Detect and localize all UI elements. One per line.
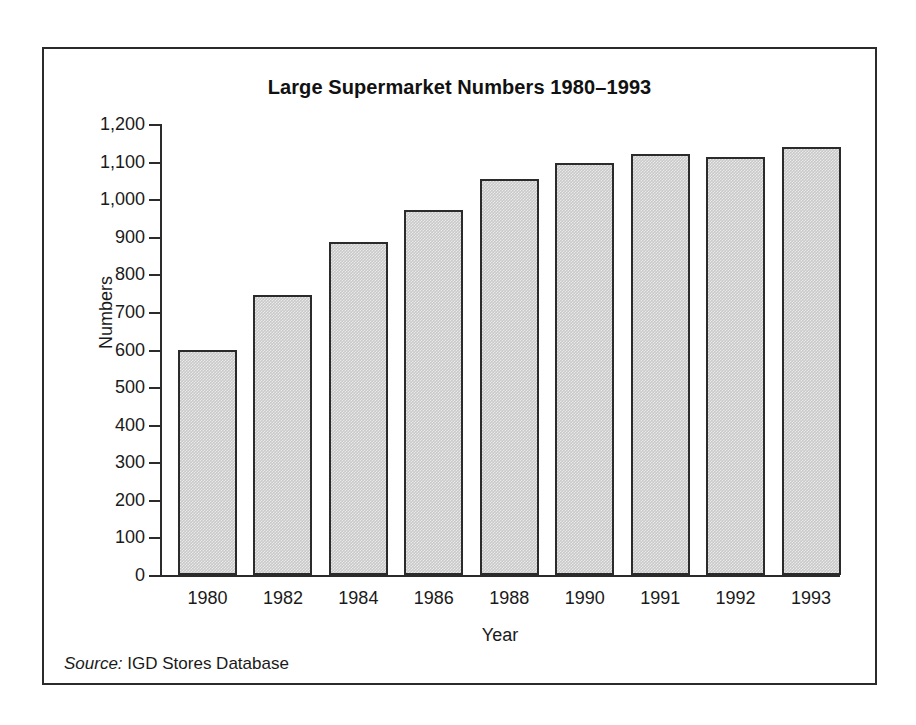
y-tick-mark [149,124,160,126]
x-tick-label: 1984 [329,588,388,609]
x-tick-label: 1988 [480,588,539,609]
bar-group: 1988 [480,124,539,575]
source-label: Source: [64,654,123,673]
x-tick-label: 1980 [178,588,237,609]
bar-series: 198019821984198619881990199119921993 [160,124,839,575]
y-tick-mark [149,575,160,577]
bar [631,154,690,575]
y-tick-mark [149,274,160,276]
chart-figure: Large Supermarket Numbers 1980–1993 0100… [42,47,877,685]
x-tick-label: 1982 [253,588,312,609]
y-tick-label: 200 [115,489,145,510]
bar [480,179,539,576]
y-tick-label: 700 [115,301,145,322]
bar-group: 1990 [555,124,614,575]
y-tick-mark [149,237,160,239]
x-tick-label: 1986 [404,588,463,609]
y-tick-label: 300 [115,452,145,473]
bar-group: 1992 [706,124,765,575]
bar-group: 1991 [631,124,690,575]
bar [555,163,614,575]
y-tick-label: 1,100 [100,151,145,172]
y-tick-mark [149,199,160,201]
bar [782,147,841,575]
y-tick-label: 1,200 [100,114,145,135]
y-tick-mark [149,387,160,389]
y-tick-mark [149,162,160,164]
bar [706,157,765,575]
y-tick-mark [149,500,160,502]
y-tick-label: 600 [115,339,145,360]
x-tick-label: 1992 [706,588,765,609]
bar-group: 1984 [329,124,388,575]
y-tick-label: 900 [115,226,145,247]
y-tick-label: 1,000 [100,189,145,210]
x-tick-label: 1991 [631,588,690,609]
bar [404,210,463,575]
x-axis-line [160,575,840,577]
bar-group: 1982 [253,124,312,575]
y-tick-label: 500 [115,377,145,398]
y-tick-label: 100 [115,527,145,548]
y-tick-mark [149,350,160,352]
bar-group: 1993 [782,124,841,575]
chart-title: Large Supermarket Numbers 1980–1993 [44,76,875,99]
x-axis-title: Year [160,625,840,646]
bar [178,350,237,576]
x-tick-label: 1990 [555,588,614,609]
y-tick-label: 0 [135,565,145,586]
y-tick-mark [149,425,160,427]
bar [329,242,388,575]
x-tick-label: 1993 [782,588,841,609]
source-note: Source: IGD Stores Database [64,654,289,674]
source-text: IGD Stores Database [123,654,289,673]
y-axis-title: Numbers [96,276,117,349]
y-tick-mark [149,312,160,314]
bar [253,295,312,575]
y-tick-mark [149,537,160,539]
y-tick-label: 800 [115,264,145,285]
plot-area: 01002003004005006007008009001,0001,1001,… [160,124,839,575]
y-tick-mark [149,462,160,464]
bar-group: 1980 [178,124,237,575]
bar-group: 1986 [404,124,463,575]
y-tick-label: 400 [115,414,145,435]
